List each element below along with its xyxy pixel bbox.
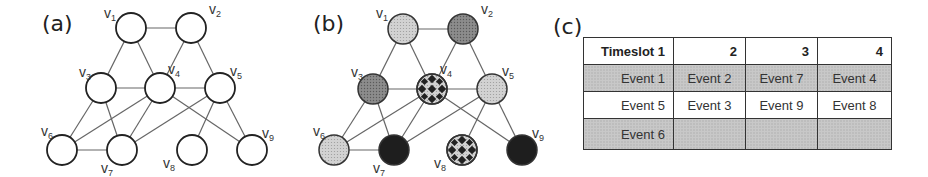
svg-text:v9: v9	[532, 125, 544, 143]
svg-text:v2: v2	[209, 1, 221, 19]
svg-text:v3: v3	[79, 64, 91, 82]
panel-label-b: (b)	[313, 11, 344, 36]
table-cell: Event 7	[746, 65, 818, 92]
svg-text:v1: v1	[104, 5, 116, 23]
node-v2-dark	[448, 14, 478, 44]
svg-text:v5: v5	[230, 63, 242, 81]
table-cell: Event 3	[674, 92, 746, 119]
svg-text:v1: v1	[376, 5, 388, 23]
table-cell	[746, 119, 818, 150]
panel-label-a: (a)	[42, 11, 73, 36]
svg-text:v6: v6	[41, 123, 53, 141]
svg-text:v4: v4	[440, 61, 452, 79]
timeslot-table: Timeslot 1 2 3 4 Event 1 Event 2 Event 7…	[583, 37, 892, 150]
table-cell: Event 2	[674, 65, 746, 92]
svg-text:v8: v8	[163, 155, 175, 173]
graph-a-nodes	[47, 13, 267, 165]
node-v8	[177, 135, 207, 165]
table-cell: Event 1	[584, 65, 674, 92]
table-row: Event 6	[584, 119, 892, 150]
table-cell	[818, 119, 892, 150]
node-v2	[176, 13, 206, 43]
header-cell: 4	[818, 38, 892, 65]
svg-text:v5: v5	[502, 63, 514, 81]
table-cell: Event 6	[584, 119, 674, 150]
svg-text:v3: v3	[351, 64, 363, 82]
panel-label-c: (c)	[553, 14, 582, 39]
svg-text:v2: v2	[481, 1, 493, 19]
node-v7-black	[379, 135, 409, 165]
node-v4-checker	[417, 74, 447, 104]
header-cell: Timeslot 1	[584, 38, 674, 65]
node-v7	[107, 135, 137, 165]
table-row: Event 5 Event 3 Event 9 Event 8	[584, 92, 892, 119]
table-row: Event 1 Event 2 Event 7 Event 4	[584, 65, 892, 92]
table-cell: Event 8	[818, 92, 892, 119]
svg-text:v6: v6	[313, 123, 325, 141]
table-cell	[674, 119, 746, 150]
node-v8-checker	[447, 135, 477, 165]
node-v1	[116, 13, 146, 43]
svg-text:v7: v7	[373, 160, 385, 177]
table-cell: Event 4	[818, 65, 892, 92]
table-cell: Event 5	[584, 92, 674, 119]
svg-text:v8: v8	[434, 155, 446, 173]
graph-b-nodes	[319, 14, 537, 165]
node-v4	[145, 73, 175, 103]
node-v1-light	[388, 14, 418, 44]
header-cell: 3	[746, 38, 818, 65]
svg-text:v9: v9	[262, 125, 274, 143]
table-header-row: Timeslot 1 2 3 4	[584, 38, 892, 65]
table-cell: Event 9	[746, 92, 818, 119]
svg-text:v4: v4	[168, 61, 180, 79]
svg-text:v7: v7	[101, 160, 113, 177]
header-cell: 2	[674, 38, 746, 65]
